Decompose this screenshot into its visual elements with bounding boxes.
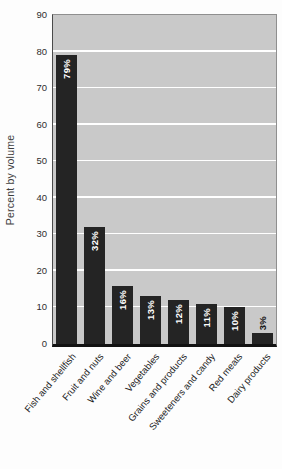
bar-4: 12% — [168, 300, 189, 344]
bar-value-label-7: 3% — [257, 316, 268, 330]
y-tick-label-80: 80 — [0, 46, 47, 58]
bar-5: 11% — [196, 304, 217, 344]
gridline-60 — [53, 123, 276, 125]
bar-0: 79% — [56, 55, 77, 344]
y-tick-label-40: 40 — [0, 192, 47, 204]
gridline-80 — [53, 50, 276, 52]
bar-2: 16% — [112, 286, 133, 344]
bar-value-label-0: 79% — [61, 59, 72, 79]
y-tick-label-90: 90 — [0, 9, 47, 21]
bar-value-label-wrap: 11% — [196, 308, 217, 327]
y-tick-label-0: 0 — [0, 338, 47, 350]
plot-inner: 79%32%16%13%12%11%10%3% — [53, 15, 276, 344]
gridline-70 — [53, 87, 276, 89]
y-tick-label-60: 60 — [0, 119, 47, 131]
bar-value-label-5: 11% — [201, 308, 212, 327]
bar-value-label-2: 16% — [117, 290, 128, 310]
bar-6: 10% — [224, 307, 245, 344]
gridline-50 — [53, 160, 276, 162]
y-tick-label-50: 50 — [0, 155, 47, 167]
y-tick-label-20: 20 — [0, 265, 47, 277]
y-axis-title: Percent by volume — [4, 135, 16, 225]
bar-7: 3% — [252, 333, 273, 344]
bar-value-label-wrap: 79% — [56, 59, 77, 79]
y-tick-label-30: 30 — [0, 228, 47, 240]
bar-value-label-wrap: 10% — [224, 311, 245, 331]
bar-value-label-3: 13% — [145, 300, 156, 320]
bar-value-label-6: 10% — [229, 311, 240, 331]
bar-value-label-4: 12% — [173, 304, 184, 324]
bar-value-label-wrap: 32% — [84, 231, 105, 251]
bar-value-label-wrap: 13% — [140, 300, 161, 320]
y-tick-label-70: 70 — [0, 82, 47, 94]
y-tick-label-10: 10 — [0, 301, 47, 313]
bar-value-label-wrap: 3% — [252, 316, 273, 330]
bar-value-label-1: 32% — [89, 231, 100, 251]
plot-area: 79%32%16%13%12%11%10%3% — [52, 14, 277, 347]
bar-value-label-wrap: 16% — [112, 290, 133, 310]
gridline-40 — [53, 196, 276, 198]
bar-3: 13% — [140, 296, 161, 344]
volume-bar-chart: Percent by volume 79%32%16%13%12%11%10%3… — [0, 0, 282, 469]
bar-value-label-wrap: 12% — [168, 304, 189, 324]
bar-1: 32% — [84, 227, 105, 344]
